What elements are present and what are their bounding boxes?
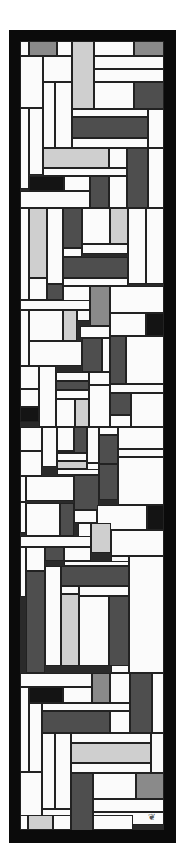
glass-pane-black xyxy=(146,313,164,336)
glass-pane-white xyxy=(99,427,118,435)
glass-pane-light-gray xyxy=(110,208,128,244)
glass-pane-white xyxy=(110,415,131,427)
glass-pane-white xyxy=(79,596,109,666)
glass-pane-white xyxy=(151,733,164,773)
glass-pane-white xyxy=(29,108,43,175)
glass-pane-white xyxy=(146,208,164,284)
glass-pane-black xyxy=(20,407,39,422)
glass-pane-white xyxy=(20,687,29,772)
glass-pane-white xyxy=(148,109,164,148)
glass-pane-white xyxy=(93,773,136,799)
glass-pane-white xyxy=(20,310,29,366)
glass-pane-dark-gray xyxy=(72,117,148,138)
glass-pane-white xyxy=(94,69,164,82)
glass-pane-dark-gray xyxy=(42,711,110,733)
glass-pane-dark-gray xyxy=(74,427,87,453)
glass-pane-white xyxy=(82,208,110,244)
glass-pane-white xyxy=(94,82,134,109)
glass-pane-dark-gray xyxy=(56,381,89,390)
glass-pane-light-gray xyxy=(28,815,53,830)
glass-pane-white xyxy=(55,733,71,809)
glass-pane-white xyxy=(42,733,55,809)
glass-pane-light-gray xyxy=(57,461,87,469)
glass-pane-white xyxy=(71,733,151,743)
glass-pane-white xyxy=(110,673,130,703)
glass-pane-light-gray xyxy=(91,523,111,553)
glass-pane-white xyxy=(63,248,82,257)
glass-pane-white xyxy=(57,41,72,56)
glass-pane-white xyxy=(20,191,90,208)
glass-pane-white xyxy=(63,687,92,703)
glass-pane-white xyxy=(20,673,92,687)
glass-pane-dark-gray xyxy=(45,547,64,561)
glass-pane-white xyxy=(110,711,130,733)
glass-pane-dark-gray xyxy=(130,673,152,733)
glass-pane-white xyxy=(79,586,129,596)
glass-pane-white xyxy=(89,372,110,385)
glass-pane-white xyxy=(20,815,28,830)
glass-pane-white xyxy=(29,278,47,300)
glass-pane-white xyxy=(47,208,63,284)
glass-pane-white xyxy=(43,168,127,176)
glass-pane-white xyxy=(77,310,90,321)
glass-pane-dark-gray xyxy=(47,284,63,300)
glass-pane-dark-gray xyxy=(63,257,128,278)
glass-pane-white xyxy=(102,338,110,372)
glass-pane-white xyxy=(118,427,164,449)
glass-pane-white xyxy=(118,457,164,505)
glass-pane-white xyxy=(72,109,148,117)
glass-pane-white xyxy=(131,393,164,427)
glass-pane-white xyxy=(110,313,146,336)
glass-pane-white xyxy=(20,366,39,389)
glass-pane-white xyxy=(55,82,72,148)
monogram-mark: ❦ xyxy=(148,812,156,822)
glass-pane-white xyxy=(89,385,110,427)
glass-pane-white xyxy=(20,389,39,407)
glass-pane-white xyxy=(42,427,57,467)
glass-pane-white xyxy=(118,449,164,457)
glass-pane-white xyxy=(20,41,29,56)
glass-pane-mid-gray xyxy=(90,286,110,326)
glass-pane-white xyxy=(111,530,164,556)
glass-pane-white xyxy=(94,41,134,56)
glass-pane-white xyxy=(94,56,164,69)
glass-pane-light-gray xyxy=(71,743,151,763)
glass-pane-dark-gray xyxy=(99,435,118,464)
glass-pane-light-gray xyxy=(63,310,77,341)
glass-pane-white xyxy=(74,510,97,523)
glass-pane-mid-gray xyxy=(136,773,164,799)
glass-pane-white xyxy=(109,176,127,208)
glass-pane-white xyxy=(72,138,148,148)
glass-pane-white xyxy=(82,244,128,254)
glass-pane-white xyxy=(39,366,56,427)
glass-pane-white xyxy=(43,56,72,82)
glass-pane-white xyxy=(43,82,55,148)
glass-pane-light-gray xyxy=(29,208,47,278)
glass-pane-white xyxy=(64,176,90,191)
glass-pane-white xyxy=(20,208,29,300)
glass-pane-mid-gray xyxy=(92,673,110,703)
glass-pane-white xyxy=(20,536,91,547)
glass-pane-white xyxy=(71,763,151,773)
glass-pane-white xyxy=(57,427,74,451)
glass-pane-dark-gray xyxy=(63,208,82,248)
glass-pane-dark-gray xyxy=(110,393,131,415)
glass-pane-white xyxy=(148,148,164,208)
glass-pane-white xyxy=(20,300,90,310)
glass-pane-black xyxy=(147,505,164,530)
glass-pane-dark-gray xyxy=(99,464,118,500)
glass-pane-black xyxy=(29,687,63,703)
glass-pane-light-gray xyxy=(61,594,79,666)
glass-pane-light-gray xyxy=(43,148,109,168)
glass-pane-dark-gray xyxy=(134,82,164,109)
glass-pane-white xyxy=(109,148,127,168)
glass-pane-light-gray xyxy=(72,41,94,109)
glass-pane-white xyxy=(20,108,29,189)
glass-pane-white xyxy=(63,286,90,301)
stained-glass-composition xyxy=(20,41,164,830)
glass-pane-white xyxy=(64,547,91,561)
glass-pane-white xyxy=(53,815,71,830)
glass-pane-white xyxy=(57,453,87,461)
glass-pane-dark-gray xyxy=(82,338,102,372)
glass-pane-dark-gray xyxy=(74,475,99,510)
